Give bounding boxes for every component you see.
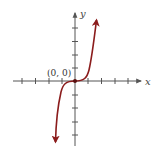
origin-label: (0, 0) <box>47 68 71 78</box>
x-axis: x <box>13 76 151 87</box>
x-axis-label: x <box>145 76 151 87</box>
graph-canvas: x y (0, 0) <box>0 0 160 147</box>
y-axis: y <box>72 8 86 146</box>
graph-figure: x y (0, 0) <box>0 0 160 147</box>
y-axis-label: y <box>79 8 86 19</box>
origin-point <box>73 79 77 83</box>
